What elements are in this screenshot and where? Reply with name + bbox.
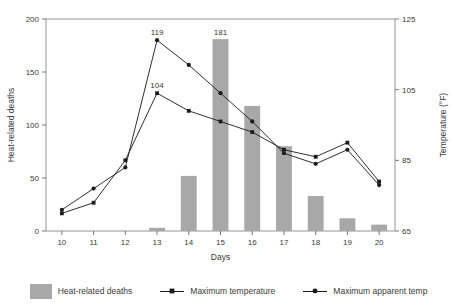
bar (181, 176, 197, 231)
x-axis-tick-label: 12 (121, 238, 130, 247)
legend-swatch-icon (30, 284, 52, 299)
line-marker (60, 208, 64, 212)
line-value-label: 119 (151, 28, 164, 37)
line-marker (155, 91, 159, 95)
bar (276, 146, 292, 231)
line-marker (155, 38, 159, 42)
bar (339, 218, 355, 231)
x-axis-tick-label: 15 (216, 238, 225, 247)
line-marker (187, 63, 191, 67)
line-value-label: 104 (150, 81, 164, 90)
x-axis-tick-label: 16 (248, 238, 257, 247)
x-axis-tick-label: 17 (280, 238, 289, 247)
left-axis-title: Heat-related deaths (6, 88, 16, 163)
legend-label-max-apparent-temp: Maximum apparent temp (333, 287, 427, 296)
line-marker (377, 183, 381, 187)
line-marker (345, 148, 349, 152)
line-marker (314, 155, 318, 159)
x-axis-tick-label: 18 (311, 238, 320, 247)
line-marker (91, 187, 95, 191)
left-axis-tick-label: 50 (30, 174, 39, 183)
line-marker (377, 180, 381, 184)
line-marker (218, 91, 222, 95)
legend-line-circle-icon (303, 287, 327, 296)
legend-item-deaths: Heat-related deaths (30, 284, 133, 299)
chart-figure: 050100150200Heat-related deaths658510512… (0, 0, 457, 306)
right-axis-tick-label: 105 (402, 86, 416, 95)
right-axis-tick-label: 85 (402, 156, 411, 165)
line-marker (60, 211, 64, 215)
line-marker (282, 151, 286, 155)
line-marker (250, 119, 254, 123)
bar (213, 39, 229, 231)
left-axis-tick-label: 200 (26, 15, 40, 24)
line-marker (346, 141, 350, 145)
line-marker (219, 120, 223, 124)
right-axis-tick-label: 65 (402, 227, 411, 236)
right-axis-tick-label: 125 (402, 15, 416, 24)
chart-svg: 050100150200Heat-related deaths658510512… (0, 0, 457, 306)
x-axis-tick-label: 19 (343, 238, 352, 247)
x-axis-tick-label: 10 (57, 238, 66, 247)
x-axis-tick-label: 11 (89, 238, 98, 247)
line-marker (314, 162, 318, 166)
legend-line-square-icon (160, 287, 184, 296)
legend-item-max-temperature: Maximum temperature (160, 287, 275, 296)
chart-legend: Heat-related deaths Maximum temperature … (0, 276, 457, 306)
line-marker (92, 201, 96, 205)
line-marker (123, 165, 127, 169)
left-axis-tick-label: 0 (35, 227, 40, 236)
bar (308, 196, 324, 231)
left-axis-tick-label: 150 (26, 68, 40, 77)
x-axis-title: Days (211, 252, 230, 262)
line-marker (250, 130, 254, 134)
x-axis-tick-label: 20 (375, 238, 384, 247)
bar-value-label: 181 (214, 28, 228, 37)
legend-item-max-apparent-temp: Maximum apparent temp (303, 287, 427, 296)
bar (371, 225, 387, 231)
left-axis-tick-label: 100 (26, 121, 40, 130)
legend-label-max-temperature: Maximum temperature (190, 287, 275, 296)
line-marker (282, 148, 286, 152)
right-axis-title: Temperature (°F) (438, 93, 448, 158)
x-axis-tick-label: 13 (153, 238, 162, 247)
bar (149, 228, 165, 231)
legend-label-deaths: Heat-related deaths (58, 287, 133, 296)
bar (244, 106, 260, 231)
line-marker (187, 109, 191, 113)
x-axis-tick-label: 14 (184, 238, 193, 247)
